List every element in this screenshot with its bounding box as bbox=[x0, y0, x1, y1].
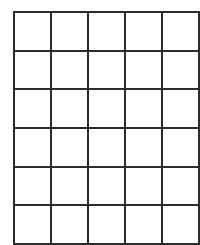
grid-cell-text bbox=[52, 206, 87, 243]
grid-cell-text bbox=[52, 52, 87, 89]
grid-cell-text bbox=[52, 90, 87, 127]
blank-grid bbox=[13, 11, 200, 245]
grid-cell[interactable] bbox=[88, 205, 125, 244]
grid-cell[interactable] bbox=[88, 89, 125, 128]
grid-cell-text bbox=[15, 90, 50, 127]
grid-cell[interactable] bbox=[51, 167, 88, 206]
grid-cell[interactable] bbox=[125, 12, 162, 51]
grid-cell[interactable] bbox=[14, 12, 51, 51]
grid-cell-text bbox=[126, 52, 161, 89]
grid-cell-text bbox=[52, 129, 87, 166]
grid-cell[interactable] bbox=[125, 89, 162, 128]
grid-cell[interactable] bbox=[88, 167, 125, 206]
grid-cell-text bbox=[52, 13, 87, 50]
grid-cell-text bbox=[89, 168, 124, 205]
grid-cell[interactable] bbox=[88, 51, 125, 90]
grid-body bbox=[14, 12, 199, 244]
grid-cell-text bbox=[126, 168, 161, 205]
grid-cell-text bbox=[89, 13, 124, 50]
grid-cell[interactable] bbox=[88, 128, 125, 167]
grid-row bbox=[14, 205, 199, 244]
grid-cell-text bbox=[89, 129, 124, 166]
grid-row bbox=[14, 51, 199, 90]
grid-cell-text bbox=[15, 206, 50, 243]
grid-row bbox=[14, 128, 199, 167]
grid-cell[interactable] bbox=[51, 128, 88, 167]
grid-cell[interactable] bbox=[162, 89, 199, 128]
grid-cell[interactable] bbox=[162, 205, 199, 244]
grid-cell-text bbox=[126, 129, 161, 166]
grid-cell[interactable] bbox=[51, 12, 88, 51]
grid-cell[interactable] bbox=[14, 205, 51, 244]
grid-cell[interactable] bbox=[162, 128, 199, 167]
grid-cell[interactable] bbox=[51, 205, 88, 244]
grid-cell[interactable] bbox=[88, 12, 125, 51]
grid-cell-text bbox=[126, 90, 161, 127]
grid-cell-text bbox=[163, 90, 198, 127]
grid-cell[interactable] bbox=[162, 167, 199, 206]
grid-cell-text bbox=[163, 168, 198, 205]
grid-cell[interactable] bbox=[14, 128, 51, 167]
grid-cell[interactable] bbox=[14, 89, 51, 128]
grid-cell-text bbox=[126, 13, 161, 50]
grid-cell-text bbox=[163, 129, 198, 166]
grid-cell-text bbox=[89, 206, 124, 243]
grid-cell[interactable] bbox=[162, 12, 199, 51]
grid-cell[interactable] bbox=[125, 128, 162, 167]
grid-cell-text bbox=[89, 52, 124, 89]
grid-cell-text bbox=[126, 206, 161, 243]
grid-row bbox=[14, 89, 199, 128]
grid-row bbox=[14, 12, 199, 51]
grid-cell-text bbox=[15, 13, 50, 50]
grid-cell[interactable] bbox=[14, 51, 51, 90]
grid-cell-text bbox=[15, 168, 50, 205]
grid-row bbox=[14, 167, 199, 206]
grid-cell[interactable] bbox=[162, 51, 199, 90]
grid-cell[interactable] bbox=[125, 205, 162, 244]
grid-cell-text bbox=[15, 129, 50, 166]
grid-cell-text bbox=[163, 206, 198, 243]
grid-cell-text bbox=[52, 168, 87, 205]
grid-cell[interactable] bbox=[125, 51, 162, 90]
grid-cell-text bbox=[163, 13, 198, 50]
grid-cell[interactable] bbox=[14, 167, 51, 206]
grid-cell-text bbox=[89, 90, 124, 127]
grid-cell-text bbox=[163, 52, 198, 89]
grid-cell-text bbox=[15, 52, 50, 89]
grid-cell[interactable] bbox=[125, 167, 162, 206]
grid-cell[interactable] bbox=[51, 51, 88, 90]
grid-cell[interactable] bbox=[51, 89, 88, 128]
